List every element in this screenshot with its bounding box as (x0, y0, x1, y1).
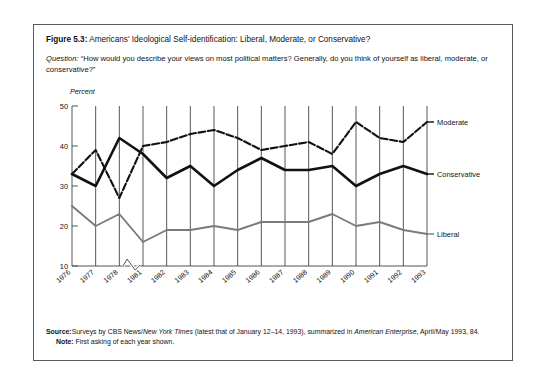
plot-wrap: 1020304050197619771978198119821983198419… (46, 100, 502, 302)
source-label: Source: (46, 328, 72, 335)
x-tick-label: 1989 (315, 268, 333, 285)
x-tick-label-group: 1990 (338, 268, 356, 285)
x-tick-label-group: 1987 (267, 268, 285, 285)
y-tick-label: 20 (60, 222, 68, 231)
x-tick-label: 1985 (220, 268, 238, 285)
figure-title: Figure 5.3: Americans' Ideological Self-… (46, 34, 502, 45)
series-label-liberal: Liberal (437, 230, 460, 239)
x-tick-label-group: 1976 (54, 268, 72, 285)
series-line-liberal (72, 206, 427, 242)
figure-title-text: Americans' Ideological Self-identificati… (89, 35, 370, 44)
x-tick-label-group: 1981 (125, 268, 143, 285)
x-tick-label-group: 1989 (315, 268, 333, 285)
note-text: First asking of each year shown. (76, 338, 175, 345)
y-tick-label: 50 (60, 102, 68, 111)
question-text: “How would you describe your views on mo… (46, 54, 488, 74)
series-label-conservative: Conservative (437, 170, 480, 179)
y-axis-title: Percent (70, 87, 95, 96)
x-tick-label: 1987 (267, 268, 285, 285)
x-tick-label: 1988 (291, 268, 309, 285)
x-tick-label-group: 1993 (409, 268, 427, 285)
note-label: Note: (56, 338, 74, 345)
x-tick-label-group: 1992 (386, 268, 404, 285)
source-text-2: (latest that of January 12–14, 1993), su… (193, 328, 354, 335)
figure-header: Figure 5.3: Americans' Ideological Self-… (46, 34, 502, 75)
x-tick-label: 1977 (78, 268, 96, 285)
x-tick-label: 1978 (102, 268, 120, 285)
figure-card: Figure 5.3: Americans' Ideological Self-… (33, 24, 513, 361)
x-tick-label-group: 1977 (78, 268, 96, 285)
source-italic-2: American Enterprise (354, 328, 416, 335)
x-tick-label-group: 1983 (173, 268, 191, 285)
x-tick-label-group: 1978 (102, 268, 120, 285)
x-tick-label: 1992 (386, 268, 404, 285)
line-chart-svg: 1020304050197619771978198119821983198419… (46, 100, 502, 302)
note-line: Note: First asking of each year shown. (46, 337, 502, 346)
x-tick-label-group: 1985 (220, 268, 238, 285)
x-tick-label: 1982 (149, 268, 167, 285)
question-block: Question: “How would you describe your v… (46, 54, 502, 75)
x-tick-label: 1984 (196, 268, 214, 285)
x-tick-label: 1993 (409, 268, 427, 285)
x-tick-label-group: 1982 (149, 268, 167, 285)
series-line-moderate (72, 122, 427, 198)
x-tick-label-group: 1991 (362, 268, 380, 285)
x-tick-label: 1990 (338, 268, 356, 285)
source-text-3: , April/May 1993, 84. (417, 328, 480, 335)
y-tick-label: 40 (60, 142, 68, 151)
figure-number-label: Figure 5.3: (46, 35, 87, 44)
question-label: Question: (46, 54, 79, 63)
source-line: Source:Surveys by CBS News/New York Time… (46, 327, 502, 336)
x-tick-label: 1983 (173, 268, 191, 285)
x-tick-label: 1981 (125, 268, 143, 285)
source-text-1: Surveys by CBS News/ (72, 328, 143, 335)
source-italic-1: New York Times (143, 328, 193, 335)
series-label-moderate: Moderate (437, 118, 468, 127)
series-line-conservative (72, 138, 427, 186)
x-tick-label: 1986 (244, 268, 262, 285)
x-tick-label-group: 1986 (244, 268, 262, 285)
x-tick-label-group: 1988 (291, 268, 309, 285)
figure-footer: Source:Surveys by CBS News/New York Time… (46, 327, 502, 346)
x-tick-label: 1976 (54, 268, 72, 285)
chart-area: Percent 10203040501976197719781981198219… (46, 87, 502, 302)
x-tick-label: 1991 (362, 268, 380, 285)
y-tick-label: 30 (60, 182, 68, 191)
x-tick-label-group: 1984 (196, 268, 214, 285)
